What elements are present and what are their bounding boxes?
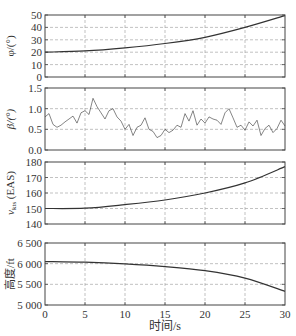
x-tick-label: 20	[200, 308, 212, 320]
x-tick-label: 15	[160, 308, 172, 320]
y-tick-label: 0.0	[28, 144, 42, 156]
x-axis-label: 时间/s	[149, 319, 181, 333]
y-axis-label-phi: φ/(°)	[4, 35, 17, 56]
y-tick-label: 1.5	[28, 82, 42, 94]
panel-phi: 01020304050	[31, 9, 285, 83]
y-tick-label: 6 500	[17, 237, 42, 249]
x-tick-label: 30	[280, 308, 292, 320]
y-axis-label-altitude: 高度/ft	[3, 258, 16, 290]
y-tick-label: 10	[31, 59, 43, 71]
panel-velocity: 140150160170180	[26, 156, 286, 230]
y-tick-label: 1.0	[28, 103, 42, 115]
panel-beta: 0.00.51.01.5	[28, 82, 285, 156]
y-axis-label-beta: β/(°)	[4, 109, 17, 131]
flight-data-figure: 010203040500.00.51.01.51401501601701805 …	[0, 0, 296, 336]
y-tick-label: 30	[31, 34, 43, 46]
y-axis-label-velocity: vkts (EAS)	[4, 171, 18, 215]
y-tick-label: 0.5	[28, 123, 42, 135]
data-line-altitude	[45, 262, 285, 292]
y-tick-label: 170	[26, 172, 43, 184]
y-tick-label: 180	[26, 156, 43, 168]
x-tick-label: 25	[240, 308, 252, 320]
x-tick-label: 0	[42, 308, 48, 320]
y-tick-label: 160	[26, 187, 43, 199]
x-tick-label: 5	[82, 308, 88, 320]
y-tick-label: 150	[26, 203, 43, 215]
y-tick-label: 50	[31, 9, 43, 21]
y-tick-label: 140	[26, 218, 43, 230]
y-tick-label: 5 000	[17, 299, 42, 311]
x-tick-label: 10	[120, 308, 132, 320]
panel-altitude: 5 0005 5006 0006 500	[17, 237, 285, 311]
y-tick-label: 40	[31, 21, 43, 33]
y-tick-label: 20	[31, 46, 43, 58]
y-tick-label: 5 500	[17, 278, 42, 290]
y-tick-label: 6 000	[17, 258, 42, 270]
